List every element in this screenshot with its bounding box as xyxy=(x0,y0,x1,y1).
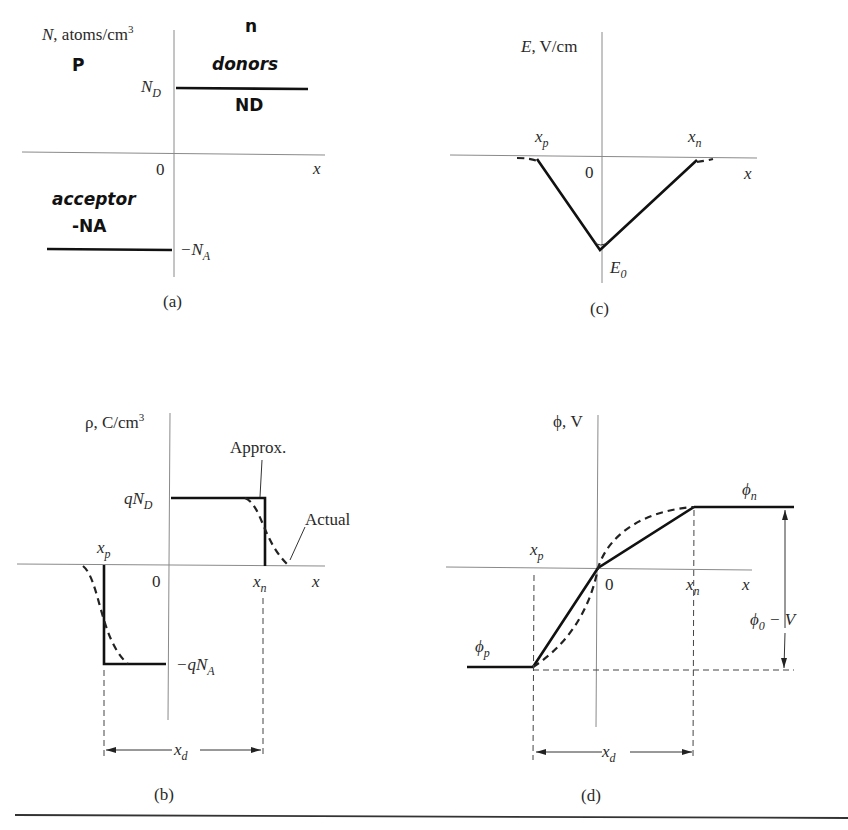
panel-a-nd-note: ND xyxy=(235,95,263,115)
panel-b-qna-label: −qNA xyxy=(176,655,215,678)
panel-c-x-label: x xyxy=(743,164,752,183)
panel-d-xp-label: xp xyxy=(529,540,544,563)
panel-d-actual-potential xyxy=(533,507,694,667)
panel-b-caption: (b) xyxy=(154,785,174,804)
panel-c-caption: (c) xyxy=(590,299,609,318)
panel-a-acceptor-note: acceptor xyxy=(52,189,137,209)
panel-d-xn-guide xyxy=(693,510,694,760)
panel-a-n-side-note: n xyxy=(245,16,257,36)
panel-a-origin: 0 xyxy=(156,160,165,179)
panel-d-phi-n-label: ϕn xyxy=(742,480,757,503)
panel-a-neg-na-note: -NA xyxy=(72,216,107,236)
panel-d-barrier-label: ϕ0 − V xyxy=(750,610,798,633)
panel-c-xn-label: xn xyxy=(687,127,702,150)
panel-b-approx-leader xyxy=(260,460,262,497)
panel-b-xd-label: xd xyxy=(173,740,189,763)
panel-c-origin: 0 xyxy=(585,163,594,182)
pn-junction-figure: N, atoms/cm3 ND −NA 0 x (a) P n donors N… xyxy=(0,0,848,830)
panel-a-na-label: −NA xyxy=(180,240,211,263)
panel-d-xn-label: xn xyxy=(685,575,700,598)
panel-b-approx-donor-block xyxy=(171,498,265,566)
panel-c-field-triangle xyxy=(537,159,697,250)
panel-b-origin: 0 xyxy=(152,572,161,591)
panel-d-xd-arrowhead-right xyxy=(682,749,692,755)
panel-b-y-label: ρ, C/cm3 xyxy=(85,411,145,432)
panel-b-xd-arrowhead-right xyxy=(251,747,261,753)
panel-d-origin: 0 xyxy=(605,575,614,594)
panel-c-y-label: E, V/cm xyxy=(520,37,577,56)
panel-b-actual-donor-curve xyxy=(245,498,288,565)
panel-c-actual-tail-left xyxy=(517,158,537,161)
panel-d-caption: (d) xyxy=(581,786,601,805)
panel-b-xd-arrowhead-left xyxy=(106,747,116,753)
panel-c-xp-label: xp xyxy=(534,127,549,150)
panel-d-phi-p-label: ϕp xyxy=(475,637,490,660)
panel-a-donor-level xyxy=(176,88,308,89)
panel-b-charge-density: ρ, C/cm3 Approx. Actual qND −qNA xp xn 0… xyxy=(17,411,351,804)
panel-d-xd-arrowhead-left xyxy=(536,749,546,755)
panel-d-potential: ϕ, V ϕn ϕp xp xn 0 x ϕ0 − V xd (d) xyxy=(446,412,798,805)
panel-a-p-side-note: P xyxy=(72,55,84,75)
panel-b-xn-label: xn xyxy=(252,572,267,595)
panel-b-qnd-label: qND xyxy=(124,489,153,512)
panel-c-actual-tail-right xyxy=(697,159,713,162)
panel-c-e0-label: E0 xyxy=(609,258,626,281)
panel-a-acceptor-level xyxy=(47,249,172,250)
panel-a-doping-profile: N, atoms/cm3 ND −NA 0 x (a) P n donors N… xyxy=(22,16,325,311)
panel-b-actual-acceptor-curve xyxy=(83,566,128,664)
panel-a-x-label: x xyxy=(312,159,321,178)
panel-a-y-label: N, atoms/cm3 xyxy=(41,23,134,44)
panel-b-x-axis xyxy=(17,564,325,566)
panel-b-actual-leader xyxy=(290,527,305,560)
panel-a-caption: (a) xyxy=(163,292,182,311)
page-bottom-rule xyxy=(15,815,848,818)
panel-b-actual-label: Actual xyxy=(305,510,351,529)
panel-d-barrier-arrowhead-bottom xyxy=(781,658,787,668)
panel-d-xd-label: xd xyxy=(601,742,617,765)
panel-d-approx-potential xyxy=(533,507,694,667)
panel-d-x-label: x xyxy=(741,575,750,594)
panel-b-approx-label: Approx. xyxy=(230,438,286,457)
panel-d-barrier-arrowhead-top xyxy=(782,510,788,520)
panel-c-electric-field: E, V/cm xp xn 0 x E0 (c) xyxy=(450,32,757,318)
panel-a-donors-note: donors xyxy=(212,54,278,74)
panel-d-xp-guide xyxy=(533,575,534,760)
panel-a-nd-label: ND xyxy=(140,77,161,100)
panel-b-x-label: x xyxy=(311,572,320,591)
panel-b-y-axis xyxy=(168,413,170,720)
panel-d-y-label: ϕ, V xyxy=(553,412,583,431)
panel-b-xp-label: xp xyxy=(96,538,111,561)
panel-c-x-axis xyxy=(450,155,757,158)
